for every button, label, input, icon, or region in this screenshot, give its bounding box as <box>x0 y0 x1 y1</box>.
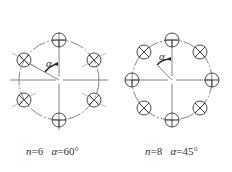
angle-ray <box>30 64 59 80</box>
figure-n6 <box>10 32 108 130</box>
angle-label: α <box>159 50 165 62</box>
figure-n8 <box>125 33 219 127</box>
angle-ray <box>158 66 172 80</box>
caption-n6: n=6 α=60° <box>26 145 79 157</box>
caption-n8: n=8 α=45° <box>145 145 198 157</box>
angle-label: α <box>46 57 52 69</box>
